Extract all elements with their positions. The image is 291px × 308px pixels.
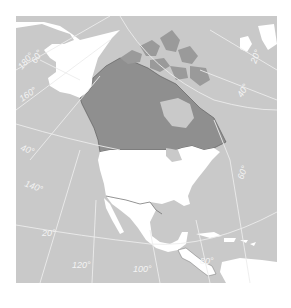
- label-lon-80: 80°: [200, 256, 214, 266]
- label-lat-20-w: 20°: [41, 228, 56, 238]
- south-america-landmass: [220, 258, 277, 283]
- map-frame: 180° 60° 160° 40° 140° 20° 120° 100° 80°…: [16, 16, 277, 283]
- label-lon-100: 100°: [133, 264, 152, 274]
- label-lon-120: 120°: [72, 260, 91, 270]
- map-svg: 180° 60° 160° 40° 140° 20° 120° 100° 80°…: [16, 16, 277, 283]
